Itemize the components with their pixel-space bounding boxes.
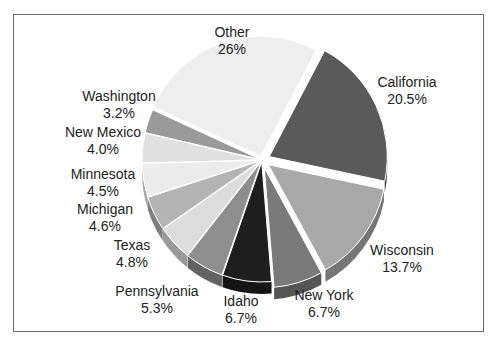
label-minnesota-value: 4.5%: [67, 183, 139, 200]
label-washington: Washington 3.2%: [80, 88, 158, 122]
label-new-mexico-name: New Mexico: [62, 124, 144, 141]
label-new-york: New York 6.7%: [288, 287, 360, 321]
label-washington-value: 3.2%: [80, 105, 158, 122]
label-new-york-value: 6.7%: [288, 304, 360, 321]
label-michigan-value: 4.6%: [74, 218, 136, 235]
label-california-name: California: [362, 74, 452, 91]
label-idaho-value: 6.7%: [218, 310, 264, 327]
label-minnesota: Minnesota 4.5%: [67, 166, 139, 200]
label-other: Other 26%: [207, 24, 257, 58]
label-idaho-name: Idaho: [218, 293, 264, 310]
label-wisconsin-name: Wisconsin: [362, 242, 442, 259]
label-michigan-name: Michigan: [74, 201, 136, 218]
label-wisconsin: Wisconsin 13.7%: [362, 242, 442, 276]
label-other-value: 26%: [207, 41, 257, 58]
label-texas: Texas 4.8%: [112, 237, 152, 271]
label-wisconsin-value: 13.7%: [362, 259, 442, 276]
label-texas-name: Texas: [112, 237, 152, 254]
label-idaho: Idaho 6.7%: [218, 293, 264, 327]
label-pennsylvania-name: Pennsylvania: [112, 283, 202, 300]
label-other-name: Other: [207, 24, 257, 41]
label-california-value: 20.5%: [362, 91, 452, 108]
label-new-york-name: New York: [288, 287, 360, 304]
label-pennsylvania-value: 5.3%: [112, 300, 202, 317]
label-new-mexico-value: 4.0%: [62, 141, 144, 158]
label-washington-name: Washington: [80, 88, 158, 105]
label-california: California 20.5%: [362, 74, 452, 108]
label-minnesota-name: Minnesota: [67, 166, 139, 183]
label-pennsylvania: Pennsylvania 5.3%: [112, 283, 202, 317]
label-michigan: Michigan 4.6%: [74, 201, 136, 235]
label-new-mexico: New Mexico 4.0%: [62, 124, 144, 158]
label-texas-value: 4.8%: [112, 254, 152, 271]
